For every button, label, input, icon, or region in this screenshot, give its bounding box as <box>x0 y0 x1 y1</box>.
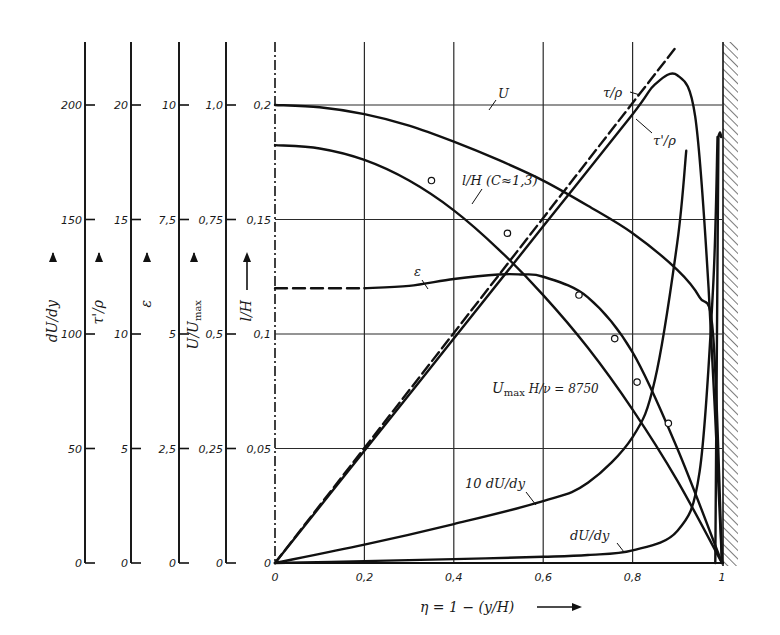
measured-point <box>428 177 434 183</box>
svg-text:l/H: l/H <box>238 299 254 321</box>
wall-hatching <box>723 42 738 566</box>
axis-title-dUdy: dU/dy <box>44 252 60 342</box>
tick-lH: 0 <box>264 557 271 570</box>
label-10-dudy: 10 dU/dy <box>465 476 526 491</box>
label-lh: l/H (C≈1,3) <box>462 173 538 188</box>
measured-point <box>612 335 618 341</box>
tick-tau_prime: 0 <box>121 557 128 570</box>
tick-tau_prime: 5 <box>121 443 128 456</box>
tick-dUdy: 0 <box>75 557 82 570</box>
tick-eps: 10 <box>162 99 176 112</box>
tick-U_rel: 0,75 <box>199 214 224 227</box>
svg-text:U/Umax: U/Umax <box>185 300 203 350</box>
x-tick: 0,6 <box>534 571 552 584</box>
measured-point <box>576 292 582 298</box>
tick-eps: 0 <box>169 557 176 570</box>
secondary-axes: 050100150200dU/dy05101520τ'/ρ02,557,510ε… <box>44 42 236 570</box>
label-reynolds: Umax H/ν = 8750 <box>492 380 599 398</box>
tick-tau_prime: 15 <box>114 214 128 227</box>
tick-eps: 5 <box>169 328 176 341</box>
chart-canvas: 050100150200dU/dy05101520τ'/ρ02,557,510ε… <box>0 0 780 635</box>
label-eps: ε <box>414 264 421 279</box>
curve-l-h-c-1-3- <box>275 145 722 563</box>
tick-tau_prime: 20 <box>114 99 128 112</box>
svg-text:ε: ε <box>138 300 154 308</box>
measured-point <box>634 379 640 385</box>
tick-lH: 0,15 <box>247 214 272 227</box>
tick-dUdy: 200 <box>61 99 82 112</box>
axis-title-tau_prime: τ'/ρ <box>90 252 106 325</box>
tick-U_rel: 0 <box>216 557 223 570</box>
curve-10-du-dy <box>275 151 686 563</box>
x-axis: 00,20,40,60,81 <box>272 571 726 584</box>
tick-U_rel: 1,0 <box>206 99 224 112</box>
tick-eps: 2,5 <box>159 443 177 456</box>
tick-dUdy: 50 <box>68 443 82 456</box>
svg-text:τ'/ρ: τ'/ρ <box>90 299 106 324</box>
measured-point <box>665 420 671 426</box>
measured-point <box>504 230 510 236</box>
tick-eps: 7,5 <box>159 214 177 227</box>
tick-lH: 0,05 <box>247 443 272 456</box>
label-u: U <box>498 86 510 101</box>
axis-title-lH: l/H <box>238 252 254 321</box>
x-tick: 0,2 <box>356 571 374 584</box>
x-tick: 0,4 <box>445 571 463 584</box>
x-tick: 0 <box>272 571 279 584</box>
label-dudy: dU/dy <box>570 528 610 543</box>
axis-title-eps: ε <box>138 252 154 308</box>
tick-dUdy: 100 <box>61 328 82 341</box>
tick-lH: 0,1 <box>254 328 272 341</box>
svg-text:dU/dy: dU/dy <box>44 299 60 342</box>
label-tau-prime: τ'/ρ <box>653 133 676 148</box>
x-axis-title: η = 1 − (y/H) <box>420 599 582 615</box>
x-axis-title-text: η = 1 − (y/H) <box>420 599 514 615</box>
tick-tau_prime: 10 <box>114 328 128 341</box>
x-tick: 1 <box>719 571 726 584</box>
axis-title-U_rel: U/Umax <box>185 252 203 349</box>
tick-U_rel: 0,25 <box>199 443 224 456</box>
tick-lH: 0,2 <box>254 99 272 112</box>
label-tau: τ/ρ <box>603 85 623 100</box>
x-tick: 0,8 <box>624 571 642 584</box>
tick-dUdy: 150 <box>61 214 82 227</box>
curve-du-dy <box>275 137 718 563</box>
tick-U_rel: 0,5 <box>206 328 224 341</box>
